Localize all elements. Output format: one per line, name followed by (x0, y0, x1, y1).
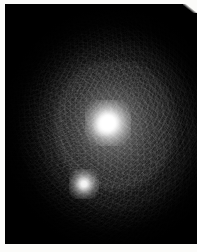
top-right-corner-notch (183, 4, 197, 13)
figure-root: Dark grayscale astronomical image showin… (0, 0, 197, 252)
secondary-source (69, 169, 100, 200)
primary-source-lobe (92, 118, 114, 136)
image-frame (5, 4, 197, 244)
